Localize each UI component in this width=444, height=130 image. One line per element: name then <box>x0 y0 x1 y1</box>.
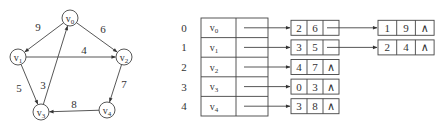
row-index: 4 <box>181 100 187 112</box>
weight-cell: 4 <box>403 41 409 53</box>
edge-weight-label: 5 <box>16 82 22 94</box>
adjvex-cell: 2 <box>385 41 391 53</box>
edge-node: 24∧ <box>378 40 434 55</box>
edge-weight-label: 9 <box>35 21 41 33</box>
weight-cell: 9 <box>403 22 409 34</box>
edge-node: 03∧ <box>291 79 339 94</box>
row-index: 1 <box>181 41 187 53</box>
edge-weight-label: 4 <box>81 44 87 56</box>
adjacency-list: 0v02619∧1v13524∧2v247∧3v303∧4v438∧ <box>181 18 434 116</box>
edge-v0-v1 <box>25 23 64 52</box>
edge-node: 35 <box>291 40 377 55</box>
diagram-canvas: 9645378v0v1v2v3v4 0v02619∧1v13524∧2v247∧… <box>0 0 444 130</box>
edge-v1-v3 <box>21 64 38 104</box>
null-pointer-icon: ∧ <box>421 41 429 53</box>
null-pointer-icon: ∧ <box>327 100 335 112</box>
edge-v3-v0 <box>43 26 67 104</box>
row-index: 3 <box>181 81 187 93</box>
adjvex-cell: 1 <box>385 22 391 34</box>
null-pointer-icon: ∧ <box>327 61 335 73</box>
null-pointer-icon: ∧ <box>421 22 429 34</box>
weight-cell: 7 <box>312 61 318 73</box>
adjvex-cell: 3 <box>296 41 302 53</box>
row-index: 2 <box>181 61 187 73</box>
edge-weight-label: 7 <box>121 78 127 90</box>
edge-weight-label: 8 <box>71 98 77 110</box>
null-pointer-icon: ∧ <box>327 81 335 93</box>
weight-cell: 6 <box>312 22 318 34</box>
adjvex-cell: 2 <box>296 22 302 34</box>
weight-cell: 5 <box>312 41 318 53</box>
edge-weight-label: 3 <box>40 79 46 91</box>
adjvex-cell: 0 <box>296 81 302 93</box>
row-index: 0 <box>181 22 187 34</box>
adjvex-cell: 4 <box>296 61 302 73</box>
weight-cell: 8 <box>312 100 318 112</box>
edge-v4-v3 <box>49 110 99 112</box>
edge-node: 38∧ <box>291 99 339 114</box>
edge-node: 26 <box>291 20 377 35</box>
directed-graph: 9645378v0v1v2v3v4 <box>10 10 132 120</box>
edge-node: 47∧ <box>291 60 339 75</box>
weight-cell: 3 <box>312 81 318 93</box>
adjvex-cell: 3 <box>296 100 302 112</box>
edge-weight-label: 6 <box>100 23 106 35</box>
edge-node: 19∧ <box>378 20 434 35</box>
edge-v2-v4 <box>110 65 122 102</box>
